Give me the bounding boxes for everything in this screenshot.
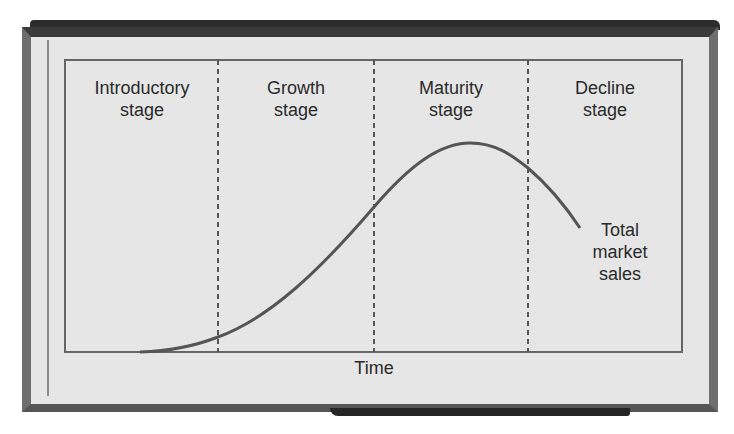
total-market-sales-curve <box>140 143 580 352</box>
stage-label-decline: Decline stage <box>535 77 675 121</box>
stage-label-line: stage <box>381 99 521 121</box>
x-axis-label: Time <box>334 357 414 379</box>
stage-label-line: Introductory <box>72 77 212 99</box>
stage-label-line: Maturity <box>381 77 521 99</box>
curve-label-line: market <box>584 241 656 263</box>
curve-label-total-market-sales: Total market sales <box>584 219 656 285</box>
stage-label-maturity: Maturity stage <box>381 77 521 121</box>
stage-label-line: Growth <box>226 77 366 99</box>
stage-label-introductory: Introductory stage <box>72 77 212 121</box>
curve-label-line: Total <box>584 219 656 241</box>
stage-label-line: Decline <box>535 77 675 99</box>
stage-label-growth: Growth stage <box>226 77 366 121</box>
stage-label-line: stage <box>226 99 366 121</box>
stage-label-line: stage <box>72 99 212 121</box>
stage-label-line: stage <box>535 99 675 121</box>
curve-label-line: sales <box>584 263 656 285</box>
